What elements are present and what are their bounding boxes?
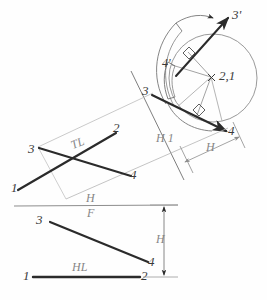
label-aux-dimension-h: H — [206, 141, 215, 153]
label-fold-h: H — [86, 192, 95, 204]
label-point-3-prime: 3' — [232, 8, 241, 21]
rotation-arc-top-extension — [176, 15, 213, 23]
label-plan-point-2: 2 — [113, 121, 120, 134]
label-plan-point-4: 4 — [130, 168, 137, 181]
label-top-point-3: 3 — [142, 84, 149, 97]
label-point-4-prime: 4' — [162, 57, 171, 69]
label-aux-fold-h1: H 1 — [156, 132, 174, 144]
rotation-construction-group — [152, 15, 257, 131]
drawing-svg — [0, 0, 267, 300]
rotation-arc-lower — [168, 104, 212, 131]
label-front-point-3: 3 — [36, 213, 43, 226]
label-top-point-4: 4 — [228, 124, 235, 137]
label-plan-point-1: 1 — [11, 181, 18, 194]
technical-drawing-canvas: 3' 4' 2,1 3 4 H 1 H TL 3 2 1 4 H F 3 4 1… — [0, 0, 267, 300]
projector-upper-rail — [38, 93, 153, 147]
radius-to-4-alt — [211, 77, 222, 121]
rotation-arc-4-inner — [172, 66, 175, 97]
label-plan-point-3: 3 — [28, 142, 35, 155]
label-front-point-1: 1 — [23, 269, 30, 282]
rotation-arc-top-cap — [176, 23, 182, 31]
label-front-point-2: 2 — [141, 269, 148, 282]
label-front-point-4: 4 — [148, 255, 155, 268]
label-horizontal-line: HL — [72, 261, 87, 273]
fold-line-h1 — [131, 71, 184, 180]
label-center-2-1: 2,1 — [219, 69, 235, 82]
label-front-dimension-h: H — [156, 233, 165, 245]
label-fold-f: F — [87, 207, 94, 219]
front-line-3-4 — [50, 222, 148, 262]
